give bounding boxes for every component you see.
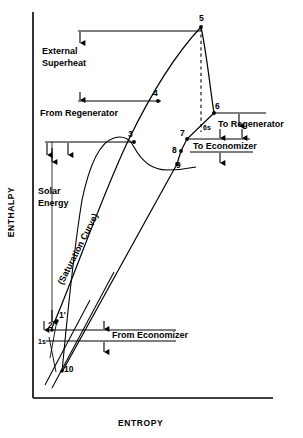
state-point-label-6s: 6s <box>203 124 211 131</box>
y-axis-title: ENTHALPY <box>6 182 16 242</box>
from-regenerator-dimension <box>78 92 161 101</box>
state-point-label-5: 5 <box>199 13 204 23</box>
state-point-label-8: 8 <box>172 145 177 155</box>
x-axis-title: ENTROPY <box>118 418 163 428</box>
state-point-markers <box>50 25 216 373</box>
expansion-path-5-6 <box>201 27 214 113</box>
heating-path <box>51 27 201 330</box>
from-economizer-label: From Economizer <box>112 330 188 341</box>
state-point-label-1s: 1s <box>38 338 46 345</box>
state-point-label-2: 2 <box>48 320 53 330</box>
external-superheat-label-line1: External <box>42 46 78 57</box>
state-point-label-4: 4 <box>153 88 158 98</box>
state-point-label-1prime: 1' <box>59 310 66 320</box>
enthalpy-level-line-3 <box>45 142 134 155</box>
solar-energy-label-line1: Solar <box>38 186 61 197</box>
state-point-label-9: 9 <box>176 160 181 170</box>
state-point-label-6: 6 <box>215 101 220 111</box>
state-point-label-3: 3 <box>128 129 133 139</box>
to-regenerator-label: To Regenerator <box>218 119 284 130</box>
to-economizer-label: To Economizer <box>193 141 257 152</box>
external-superheat-label-line2: Superheat <box>42 58 86 69</box>
state-point-label-10: 10 <box>64 364 73 374</box>
from-regenerator-label: From Regenerator <box>40 108 118 119</box>
external-superheat-dimension <box>78 31 201 43</box>
figure-canvas: ENTHALPY ENTROPY External Superheat From… <box>0 0 303 438</box>
solar-energy-label-line2: Energy <box>38 198 69 209</box>
state-point-label-7: 7 <box>180 128 185 138</box>
